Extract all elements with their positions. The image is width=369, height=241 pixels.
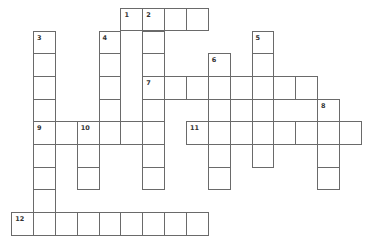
crossword-cell[interactable] [208, 167, 231, 191]
crossword-cell[interactable] [208, 144, 231, 168]
crossword-cell[interactable]: 9 [33, 121, 56, 145]
crossword-cell[interactable] [273, 121, 296, 145]
crossword-cell[interactable] [164, 212, 187, 236]
crossword-cell[interactable]: 2 [142, 8, 165, 32]
crossword-cell[interactable] [33, 167, 56, 191]
crossword-cell[interactable] [164, 76, 187, 100]
crossword-cell[interactable] [33, 99, 56, 123]
crossword-cell[interactable]: 5 [252, 31, 275, 55]
crossword-cell[interactable] [252, 144, 275, 168]
clue-number: 6 [212, 57, 217, 64]
crossword-cell[interactable] [33, 189, 56, 213]
crossword-cell[interactable] [142, 121, 165, 145]
crossword-cell[interactable] [55, 121, 78, 145]
crossword-cell[interactable] [295, 76, 318, 100]
crossword-cell[interactable] [142, 53, 165, 77]
clue-number: 9 [37, 125, 42, 132]
crossword-cell[interactable] [33, 76, 56, 100]
crossword-cell[interactable] [120, 121, 143, 145]
crossword-cell[interactable]: 3 [33, 31, 56, 55]
clue-number: 10 [81, 125, 90, 132]
crossword-cell[interactable] [99, 53, 122, 77]
crossword-cell[interactable]: 12 [11, 212, 34, 236]
crossword-cell[interactable] [186, 76, 209, 100]
crossword-cell[interactable] [33, 144, 56, 168]
crossword-cell[interactable]: 10 [77, 121, 100, 145]
crossword-cell[interactable] [186, 8, 209, 32]
crossword-cell[interactable] [33, 53, 56, 77]
clue-number: 8 [321, 103, 326, 110]
crossword-cell[interactable]: 11 [186, 121, 209, 145]
crossword-cell[interactable] [230, 76, 253, 100]
crossword-cell[interactable] [208, 121, 231, 145]
clue-number: 1 [124, 12, 129, 19]
clue-number: 2 [146, 12, 151, 19]
crossword-cell[interactable] [99, 212, 122, 236]
crossword-cell[interactable]: 8 [317, 99, 340, 123]
clue-number: 7 [146, 80, 151, 87]
crossword-cell[interactable] [230, 121, 253, 145]
crossword-cell[interactable]: 1 [120, 8, 143, 32]
crossword-cell[interactable] [77, 167, 100, 191]
crossword-cell[interactable] [252, 76, 275, 100]
clue-number: 12 [15, 216, 24, 223]
crossword-cell[interactable] [120, 212, 143, 236]
crossword-cell[interactable] [142, 167, 165, 191]
crossword-cell[interactable] [273, 76, 296, 100]
crossword-cell[interactable] [295, 121, 318, 145]
crossword-cell[interactable] [164, 8, 187, 32]
crossword-cell[interactable]: 7 [142, 76, 165, 100]
crossword-grid: 127394568101112 [0, 0, 369, 241]
crossword-cell[interactable] [317, 144, 340, 168]
crossword-cell[interactable] [77, 144, 100, 168]
crossword-cell[interactable] [142, 31, 165, 55]
crossword-cell[interactable] [33, 212, 56, 236]
crossword-cell[interactable] [208, 76, 231, 100]
crossword-cell[interactable] [142, 212, 165, 236]
clue-number: 5 [256, 35, 261, 42]
crossword-cell[interactable] [186, 212, 209, 236]
clue-number: 3 [37, 35, 42, 42]
crossword-cell[interactable] [317, 121, 340, 145]
crossword-cell[interactable] [317, 167, 340, 191]
crossword-cell[interactable] [99, 99, 122, 123]
crossword-cell[interactable] [252, 99, 275, 123]
crossword-cell[interactable] [142, 144, 165, 168]
crossword-cell[interactable]: 4 [99, 31, 122, 55]
crossword-cell[interactable] [339, 121, 362, 145]
clue-number: 4 [103, 35, 108, 42]
crossword-cell[interactable] [77, 212, 100, 236]
crossword-cell[interactable] [142, 99, 165, 123]
crossword-cell[interactable] [99, 76, 122, 100]
crossword-cell[interactable] [252, 121, 275, 145]
crossword-cell[interactable]: 6 [208, 53, 231, 77]
crossword-cell[interactable] [99, 121, 122, 145]
crossword-cell[interactable] [208, 99, 231, 123]
crossword-cell[interactable] [55, 212, 78, 236]
crossword-cell[interactable] [252, 53, 275, 77]
clue-number: 11 [190, 125, 199, 132]
